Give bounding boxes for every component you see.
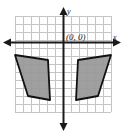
y-axis-bottom-arrow-icon [60,123,68,131]
y-axis-label: y [66,7,71,16]
x-axis-left-arrow-icon [3,39,11,47]
x-axis-label: x [112,33,117,42]
origin-label: (0, 0) [66,32,86,42]
coordinate-plane-svg: (0, 0) x y [0,0,124,134]
coordinate-plane-figure: (0, 0) x y [0,0,124,134]
